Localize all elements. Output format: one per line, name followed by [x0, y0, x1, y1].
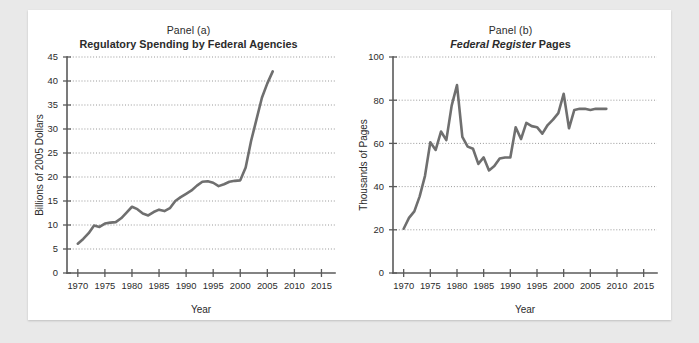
x-tick-label-2005: 2005 — [257, 280, 278, 291]
y-tick-label-20: 20 — [374, 224, 384, 235]
panel-a-title: Regulatory Spending by Federal Agencies — [28, 37, 349, 51]
data-series-line — [78, 71, 273, 243]
y-tick-label-35: 35 — [48, 99, 58, 110]
chart-panel-b: Panel (b) Federal Register Pages 0204060… — [350, 10, 671, 320]
y-tick-label-10: 10 — [48, 219, 58, 230]
x-tick-label-2015: 2015 — [633, 280, 654, 291]
panel-a-heading: Panel (a) Regulatory Spending by Federal… — [28, 24, 349, 51]
panel-b-label: Panel (b) — [350, 24, 671, 37]
y-tick-label-60: 60 — [374, 138, 384, 149]
chart-panel-a: Panel (a) Regulatory Spending by Federal… — [28, 10, 349, 320]
panel-a-plot: 0510152025303540451970197519801985199019… — [28, 10, 349, 320]
x-tick-label-2010: 2010 — [607, 280, 628, 291]
x-tick-label-2000: 2000 — [553, 280, 574, 291]
y-axis-title: Billions of 2005 Dollars — [34, 114, 45, 216]
y-tick-label-0: 0 — [53, 267, 58, 278]
y-tick-label-45: 45 — [48, 51, 58, 62]
x-tick-label-1970: 1970 — [67, 280, 88, 291]
x-tick-label-2015: 2015 — [311, 280, 332, 291]
x-tick-label-1980: 1980 — [122, 280, 143, 291]
panel-b-title: Federal Register Pages — [350, 37, 671, 51]
y-tick-label-20: 20 — [48, 171, 58, 182]
y-tick-label-25: 25 — [48, 147, 58, 158]
panel-a-label: Panel (a) — [28, 24, 349, 37]
x-tick-label-1975: 1975 — [94, 280, 115, 291]
y-axis-title: Thousands of Pages — [358, 119, 369, 211]
y-tick-label-40: 40 — [374, 181, 384, 192]
x-tick-label-1995: 1995 — [527, 280, 548, 291]
panel-b-title-tail: Pages — [536, 38, 571, 50]
panel-b-title-italic: Federal Register — [450, 38, 535, 50]
x-tick-label-1990: 1990 — [176, 280, 197, 291]
y-tick-label-5: 5 — [53, 243, 58, 254]
y-tick-label-40: 40 — [48, 75, 58, 86]
x-tick-label-1990: 1990 — [500, 280, 521, 291]
y-tick-label-0: 0 — [379, 267, 384, 278]
y-tick-label-100: 100 — [368, 51, 384, 62]
panel-b-plot: 0204060801001970197519801985199019952000… — [350, 10, 671, 320]
figure-frame: Panel (a) Regulatory Spending by Federal… — [28, 10, 671, 320]
x-axis-title: Year — [515, 304, 536, 315]
y-tick-label-80: 80 — [374, 95, 384, 106]
x-axis-title: Year — [191, 304, 212, 315]
x-tick-label-1995: 1995 — [203, 280, 224, 291]
data-series-line — [404, 85, 607, 229]
y-tick-label-15: 15 — [48, 195, 58, 206]
x-tick-label-1985: 1985 — [473, 280, 494, 291]
x-tick-label-1980: 1980 — [447, 280, 468, 291]
x-tick-label-2010: 2010 — [284, 280, 305, 291]
x-tick-label-2005: 2005 — [580, 280, 601, 291]
y-tick-label-30: 30 — [48, 123, 58, 134]
x-tick-label-1970: 1970 — [393, 280, 414, 291]
x-tick-label-1985: 1985 — [149, 280, 170, 291]
panel-b-heading: Panel (b) Federal Register Pages — [350, 24, 671, 51]
x-tick-label-2000: 2000 — [230, 280, 251, 291]
x-tick-label-1975: 1975 — [420, 280, 441, 291]
